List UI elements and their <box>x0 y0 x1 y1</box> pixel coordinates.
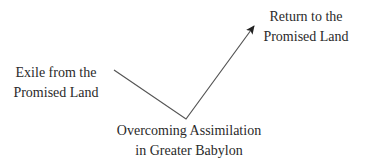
node-exile-line-2: Promised Land <box>2 83 110 103</box>
node-return-label: Return to the Promised Land <box>250 7 362 47</box>
node-return-line-2: Promised Land <box>250 27 362 47</box>
node-overcoming-line-1: Overcoming Assimilation <box>116 121 262 141</box>
node-exile-line-1: Exile from the <box>2 63 110 83</box>
node-return-line-1: Return to the <box>250 7 362 27</box>
node-exile-label: Exile from the Promised Land <box>2 63 110 103</box>
node-overcoming-line-2: in Greater Babylon <box>116 141 262 161</box>
node-overcoming-label: Overcoming Assimilation in Greater Babyl… <box>116 121 262 161</box>
descent-ascent-line <box>114 26 254 119</box>
